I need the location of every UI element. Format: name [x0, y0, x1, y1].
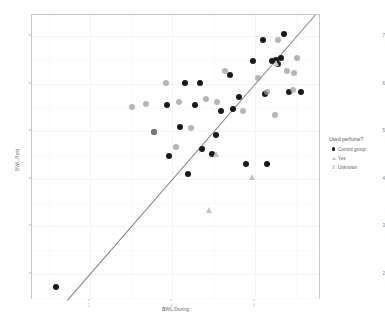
legend-marker-icon — [329, 165, 338, 169]
data-point — [249, 174, 255, 180]
y-tick-mark — [29, 272, 31, 273]
y-tick-mark — [29, 130, 31, 131]
data-point — [255, 75, 261, 81]
data-point — [222, 68, 228, 74]
data-point — [203, 96, 209, 102]
data-point — [213, 132, 219, 138]
scatter-plot-figure: 234567 246 BWL.During BWL.Post Used perf… — [0, 0, 385, 322]
data-point — [176, 99, 182, 105]
data-point — [214, 99, 220, 105]
data-point — [284, 68, 290, 74]
gridline-horizontal-minor — [32, 155, 319, 156]
y-tick-label: 4 — [363, 175, 385, 180]
data-point — [197, 80, 203, 86]
data-point — [273, 60, 279, 66]
gridline-horizontal-minor — [32, 250, 319, 251]
gridline-horizontal-minor — [32, 108, 319, 109]
y-axis-title: BWL.Post — [14, 130, 20, 190]
gridline-vertical — [172, 15, 173, 298]
data-point — [143, 101, 149, 107]
data-point — [290, 87, 296, 93]
data-point — [230, 106, 236, 112]
data-point — [264, 161, 270, 167]
data-point — [218, 108, 224, 114]
data-point — [173, 144, 179, 150]
legend-marker-icon — [329, 147, 338, 151]
legend-title: Used perfume? — [329, 136, 381, 142]
y-tick-label: 3 — [363, 223, 385, 228]
legend: Used perfume? Control groupYesUnknown — [329, 136, 381, 172]
legend-items: Control groupYesUnknown — [329, 145, 381, 171]
gridline-horizontal-minor — [32, 203, 319, 204]
y-tick-label: 2 — [363, 270, 385, 275]
gridline-vertical — [90, 15, 91, 298]
data-point — [151, 129, 157, 135]
data-point — [294, 55, 300, 61]
data-point — [298, 89, 304, 95]
data-point — [227, 72, 233, 78]
y-tick-mark — [29, 177, 31, 178]
data-point — [166, 153, 172, 159]
gridline-horizontal-minor — [32, 298, 319, 299]
legend-marker-icon — [329, 157, 338, 160]
data-point — [272, 112, 278, 118]
y-tick-label: 6 — [363, 80, 385, 85]
x-tick-mark — [171, 299, 172, 301]
legend-item-yes: Yes — [329, 154, 381, 162]
gridline-vertical-minor — [131, 15, 132, 298]
y-tick-mark — [29, 35, 31, 36]
gridline-vertical — [255, 15, 256, 298]
y-tick-label: 7 — [363, 33, 385, 38]
x-tick-mark — [88, 299, 89, 301]
data-point — [243, 161, 249, 167]
data-point — [260, 37, 266, 43]
legend-item-control-group: Control group — [329, 145, 381, 153]
x-axis-title: BWL.During — [31, 306, 320, 312]
data-point — [129, 104, 135, 110]
gridline-horizontal — [32, 84, 319, 85]
data-point — [240, 108, 246, 114]
gridline-horizontal — [32, 179, 319, 180]
data-point — [163, 80, 169, 86]
gridline-vertical-minor — [49, 15, 50, 298]
data-point — [250, 58, 256, 64]
data-point — [188, 125, 194, 131]
data-point — [206, 207, 212, 213]
data-point — [199, 146, 205, 152]
y-tick-label: 5 — [363, 128, 385, 133]
data-point — [213, 151, 219, 157]
legend-item-label: Yes — [338, 156, 346, 161]
data-point — [275, 37, 281, 43]
legend-item-label: Unknown — [338, 165, 357, 170]
x-tick-mark — [253, 299, 254, 301]
y-tick-mark — [29, 225, 31, 226]
gridline-horizontal — [32, 131, 319, 132]
data-point — [185, 171, 191, 177]
data-point — [53, 284, 59, 290]
legend-item-unknown: Unknown — [329, 163, 381, 171]
data-point — [177, 124, 183, 130]
data-point — [281, 31, 287, 37]
data-point — [182, 80, 188, 86]
gridline-horizontal — [32, 226, 319, 227]
plot-panel — [31, 14, 320, 299]
data-point — [264, 89, 270, 95]
y-tick-mark — [29, 82, 31, 83]
gridline-horizontal — [32, 274, 319, 275]
legend-item-label: Control group — [338, 147, 366, 152]
